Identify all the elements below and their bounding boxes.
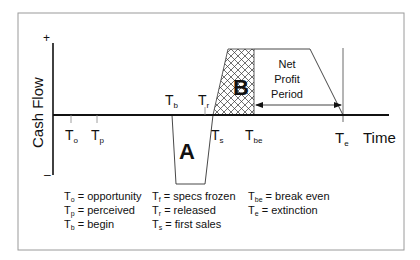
y-axis-label: Cash Flow — [29, 77, 46, 148]
y-axis-plus: + — [43, 31, 50, 45]
marker-tp: Tp — [91, 127, 105, 145]
legend-item-te: Te = extinction — [248, 204, 318, 217]
legend-item-tf: Tf = specs frozen — [152, 190, 236, 203]
legend-item-ts: Ts = first sales — [152, 218, 222, 231]
net-profit-line3: Period — [271, 88, 303, 100]
net-profit-line2: Profit — [274, 73, 300, 85]
legend-item-to: To = opportunity — [64, 190, 142, 203]
marker-tbe: Tbe — [245, 127, 263, 145]
legend: To = opportunity Tp = perceived Tb = beg… — [64, 190, 330, 231]
y-axis-minus: – — [44, 168, 51, 182]
marker-tb: Tb — [165, 92, 179, 110]
x-axis-label: Time — [363, 129, 396, 146]
marker-te: Te — [335, 129, 349, 148]
marker-to: To — [65, 127, 79, 145]
legend-item-tbe: Tbe = break even — [248, 190, 330, 203]
net-profit-line1: Net — [278, 58, 295, 70]
region-b-label: B — [233, 75, 249, 100]
marker-ts: Ts — [211, 127, 224, 145]
legend-item-tb: Tb = begin — [64, 218, 114, 231]
product-lifecycle-cashflow-diagram: + – Cash Flow Time A B Net Profit Period… — [0, 0, 420, 260]
legend-item-tr: Tr = released — [152, 204, 216, 217]
marker-tr: Tr — [198, 92, 210, 110]
legend-item-tp: Tp = perceived — [64, 204, 135, 218]
region-a-label: A — [179, 139, 195, 164]
